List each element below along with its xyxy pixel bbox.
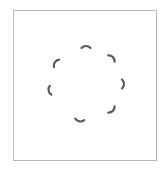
spinner-segment (108, 106, 114, 112)
spinner-segment (75, 119, 84, 122)
spinner-segment (48, 86, 51, 95)
loading-spinner (0, 0, 168, 170)
spinner-segment (54, 60, 59, 67)
spinner-segment (122, 79, 124, 88)
spinner-segment (108, 55, 114, 61)
spinner-segment (81, 46, 90, 48)
loading-spinner-icon (0, 0, 168, 170)
